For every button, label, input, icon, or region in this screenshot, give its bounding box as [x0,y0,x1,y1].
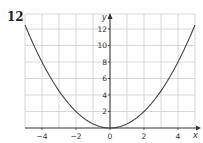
y-tick-label: 8 [102,58,107,67]
axes [25,13,201,131]
y-tick-label: 4 [102,91,107,100]
y-tick-label: 2 [102,107,107,116]
x-tick-label: 2 [142,132,147,141]
x-tick-label: −2 [70,132,81,141]
x-axis-label: x [192,131,198,140]
x-tick-label: 4 [176,132,181,141]
y-tick-label: 6 [102,74,107,83]
x-arrow-icon [196,126,201,131]
tick-labels: −4−202424681012xy [36,13,198,141]
x-tick-label: 0 [108,132,113,141]
y-tick-label: 10 [97,41,107,50]
parabola-chart: −4−202424681012xy [0,0,203,143]
y-tick-label: 12 [97,25,107,34]
y-axis-label: y [101,13,107,22]
x-tick-label: −4 [36,132,47,141]
